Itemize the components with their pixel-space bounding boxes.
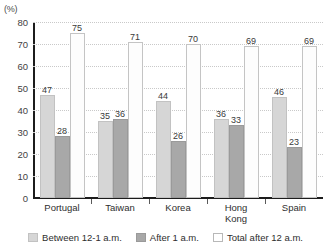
- category-label: Korea: [165, 203, 190, 214]
- bar: 36: [214, 119, 229, 198]
- legend-swatch: [28, 233, 38, 242]
- bar-chart: (%) 010203040506070804728753536714426703…: [0, 0, 331, 252]
- legend-label: After 1 a.m.: [150, 232, 199, 243]
- category-tick: [265, 199, 266, 204]
- legend-label: Total after 12 a.m.: [227, 232, 303, 243]
- category-tick: [91, 199, 92, 204]
- y-axis-tick-label: 80: [17, 17, 28, 28]
- category-label: Hong Kong: [225, 203, 248, 224]
- bar: 70: [186, 44, 201, 198]
- bar: 47: [40, 95, 55, 198]
- y-axis-tick-label: 70: [17, 39, 28, 50]
- bar: 33: [229, 125, 244, 198]
- bar: 71: [128, 42, 143, 198]
- bar-value-label: 35: [100, 112, 110, 121]
- category-tick: [149, 199, 150, 204]
- bar-value-label: 28: [57, 127, 67, 136]
- bar-group: 363369: [207, 22, 265, 198]
- bar-group: 353671: [91, 22, 149, 198]
- bar-group: 442670: [149, 22, 207, 198]
- bar-group-bars: 442670: [149, 22, 207, 198]
- category-label: Portugal: [44, 203, 79, 214]
- y-axis-unit-label: (%): [4, 4, 17, 14]
- legend-swatch: [136, 233, 146, 242]
- bar-value-label: 44: [158, 92, 168, 101]
- bar-value-label: 26: [173, 132, 183, 141]
- y-axis-tick-label: 60: [17, 61, 28, 72]
- bar-group-bars: 472875: [33, 22, 91, 198]
- y-axis-tick-label: 0: [23, 193, 28, 204]
- bar-value-label: 69: [246, 37, 256, 46]
- bar-value-label: 69: [304, 37, 314, 46]
- bar: 44: [156, 101, 171, 198]
- bar: 35: [98, 121, 113, 198]
- bar: 46: [272, 97, 287, 198]
- bar-group: 462369: [265, 22, 323, 198]
- legend-swatch: [213, 233, 223, 242]
- bar: 26: [171, 141, 186, 198]
- plot-area: 0102030405060708047287535367144267036336…: [33, 22, 323, 198]
- bar-value-label: 33: [231, 116, 241, 125]
- legend-item: Total after 12 a.m.: [213, 232, 303, 243]
- bar-value-label: 71: [130, 33, 140, 42]
- legend-label: Between 12-1 a.m.: [42, 232, 122, 243]
- bar: 69: [302, 46, 317, 198]
- bar-value-label: 47: [42, 86, 52, 95]
- legend-item: Between 12-1 a.m.: [28, 232, 122, 243]
- bar-value-label: 46: [274, 88, 284, 97]
- y-axis-tick-label: 30: [17, 127, 28, 138]
- category-label: Spain: [282, 203, 306, 214]
- bar-value-label: 36: [115, 110, 125, 119]
- y-axis-tick-label: 20: [17, 149, 28, 160]
- legend-item: After 1 a.m.: [136, 232, 199, 243]
- chart-legend: Between 12-1 a.m.After 1 a.m.Total after…: [0, 232, 331, 243]
- bar: 23: [287, 147, 302, 198]
- bar-value-label: 75: [72, 24, 82, 33]
- y-axis-tick-label: 10: [17, 171, 28, 182]
- bar-group-bars: 353671: [91, 22, 149, 198]
- bar: 75: [70, 33, 85, 198]
- bar-group-bars: 462369: [265, 22, 323, 198]
- category-label: Taiwan: [105, 203, 135, 214]
- y-axis-tick-label: 40: [17, 105, 28, 116]
- bar-value-label: 23: [289, 138, 299, 147]
- bar: 69: [244, 46, 259, 198]
- bar: 36: [113, 119, 128, 198]
- bar-group-bars: 363369: [207, 22, 265, 198]
- category-tick: [207, 199, 208, 204]
- y-axis-tick-label: 50: [17, 83, 28, 94]
- bar-value-label: 70: [188, 35, 198, 44]
- bar-value-label: 36: [216, 110, 226, 119]
- bar-group: 472875: [33, 22, 91, 198]
- bar: 28: [55, 136, 70, 198]
